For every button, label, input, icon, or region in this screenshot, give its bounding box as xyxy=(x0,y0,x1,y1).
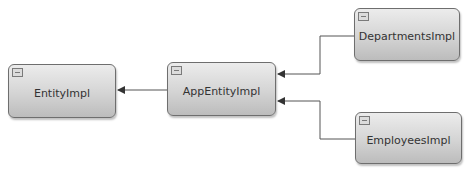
edge-departments-to-app[interactable] xyxy=(278,36,354,74)
collapse-icon[interactable] xyxy=(12,68,23,77)
collapse-icon[interactable] xyxy=(359,116,370,125)
node-label: AppEntityImpl xyxy=(183,81,261,98)
collapse-icon[interactable] xyxy=(358,12,369,21)
node-entity-impl[interactable]: EntityImpl xyxy=(8,64,116,118)
node-label: DepartmentsImpl xyxy=(359,26,455,43)
collapse-icon[interactable] xyxy=(171,66,182,75)
node-label: EmployeesImpl xyxy=(366,130,450,147)
edge-employees-to-app[interactable] xyxy=(278,101,355,139)
node-app-entity-impl[interactable]: AppEntityImpl xyxy=(167,62,276,116)
node-departments-impl[interactable]: DepartmentsImpl xyxy=(354,8,460,61)
diagram-canvas: EntityImpl AppEntityImpl DepartmentsImpl… xyxy=(0,0,466,172)
node-label: EntityImpl xyxy=(34,83,90,100)
node-employees-impl[interactable]: EmployeesImpl xyxy=(355,112,462,164)
